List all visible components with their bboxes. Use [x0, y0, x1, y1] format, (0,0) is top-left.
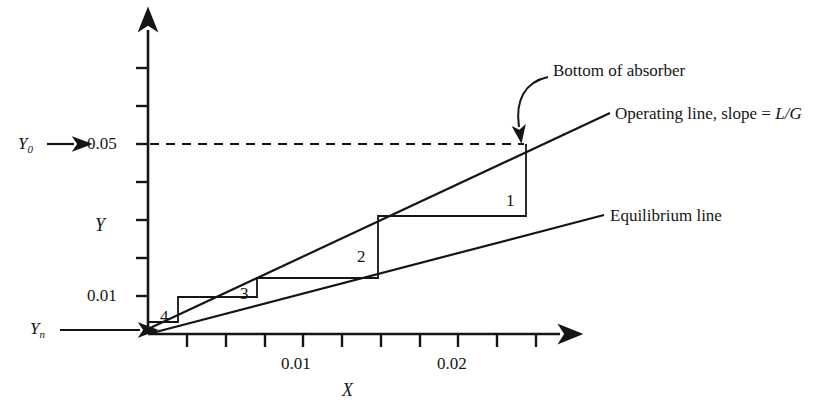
stream-label-y0: Y0	[18, 135, 33, 155]
figure-container: Y0 Yn 0.05 0.01 Y 0.01 0.02 X 1 2 3 4 Bo…	[0, 0, 825, 415]
x-tick-label-0.01: 0.01	[281, 355, 311, 372]
x-axis-label: X	[342, 381, 353, 399]
stage-label-4: 4	[160, 308, 169, 325]
y-tick-label-0.05: 0.05	[87, 135, 117, 152]
annotation-equilibrium-line: Equilibrium line	[610, 207, 722, 224]
bottom-of-absorber-leader	[518, 77, 548, 127]
x-tick-label-0.02: 0.02	[437, 355, 467, 372]
annotation-bottom-of-absorber: Bottom of absorber	[553, 62, 685, 79]
annotation-operating-line-slope: L/G	[775, 104, 801, 123]
stream-label-yn: Yn	[30, 320, 45, 340]
y-tick-label-0.01: 0.01	[87, 287, 117, 304]
stage-staircase	[148, 144, 526, 322]
stream-label-y0-sub: 0	[27, 143, 33, 155]
equilibrium-line	[148, 215, 604, 334]
stream-label-yn-sub: n	[39, 328, 45, 340]
annotation-operating-line-text: Operating line, slope =	[615, 104, 775, 123]
y-axis-label: Y	[95, 216, 105, 234]
stage-label-2: 2	[357, 248, 366, 265]
stage-label-3: 3	[240, 285, 249, 302]
annotation-operating-line: Operating line, slope = L/G	[615, 105, 802, 122]
stage-label-1: 1	[506, 192, 515, 209]
